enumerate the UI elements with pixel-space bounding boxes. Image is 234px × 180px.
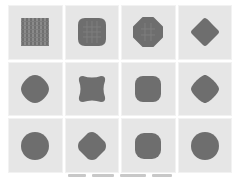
rounded-square-shape — [133, 74, 163, 104]
shape-grid-figure — [8, 5, 232, 173]
panel-2 — [65, 5, 120, 60]
panel-4 — [178, 5, 233, 60]
panel-9 — [8, 118, 63, 173]
rounded-square-shape — [133, 131, 163, 161]
panel-7 — [121, 62, 176, 117]
checkered-square-shape — [20, 17, 50, 47]
pinched-squircle-shape — [77, 74, 107, 104]
panel-6 — [65, 62, 120, 117]
panel-10 — [65, 118, 120, 173]
rounded-diamond-shape — [190, 74, 220, 104]
octagon-shape — [133, 17, 163, 47]
diamond-shape — [190, 17, 220, 47]
panel-3 — [121, 5, 176, 60]
panel-1 — [8, 5, 63, 60]
circle-shape — [190, 131, 220, 161]
panel-8 — [178, 62, 233, 117]
circle-shape — [20, 131, 50, 161]
panel-11 — [121, 118, 176, 173]
rounded-octagon-shape — [77, 17, 107, 47]
faint-caption — [60, 174, 180, 179]
diamond-rounded-shape — [77, 131, 107, 161]
panel-12 — [178, 118, 233, 173]
panel-5 — [8, 62, 63, 117]
rounded-diamond-blob-shape — [20, 74, 50, 104]
